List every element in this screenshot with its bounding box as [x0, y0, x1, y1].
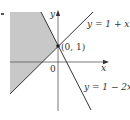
margin-mark — [1, 13, 4, 15]
line-y-equals-1-minus-2x — [41, 12, 91, 110]
line-2-label: y = 1 − 2x — [83, 82, 130, 92]
inequality-graph: y x 0 (0, 1) y = 1 + x y = 1 − 2x — [0, 0, 130, 120]
x-axis-label: x — [101, 63, 106, 73]
origin-label: 0 — [50, 64, 56, 74]
y-axis-arrow-icon — [56, 10, 60, 16]
line-1-label: y = 1 + x — [86, 19, 129, 29]
intersection-label: (0, 1) — [61, 42, 85, 52]
intersection-point — [56, 44, 60, 48]
y-axis-label: y — [49, 9, 56, 19]
